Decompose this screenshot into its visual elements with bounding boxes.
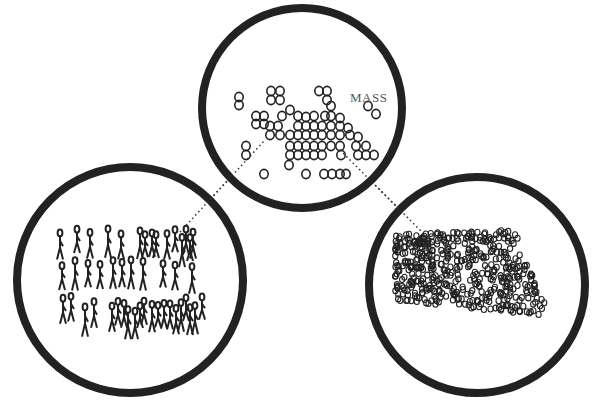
panel-aggregate xyxy=(369,177,585,393)
panel-crowd xyxy=(17,167,243,393)
mass-label: MASS xyxy=(350,90,387,105)
mass-diagram: MASS xyxy=(0,0,603,405)
panel-mass: MASS xyxy=(202,8,402,208)
